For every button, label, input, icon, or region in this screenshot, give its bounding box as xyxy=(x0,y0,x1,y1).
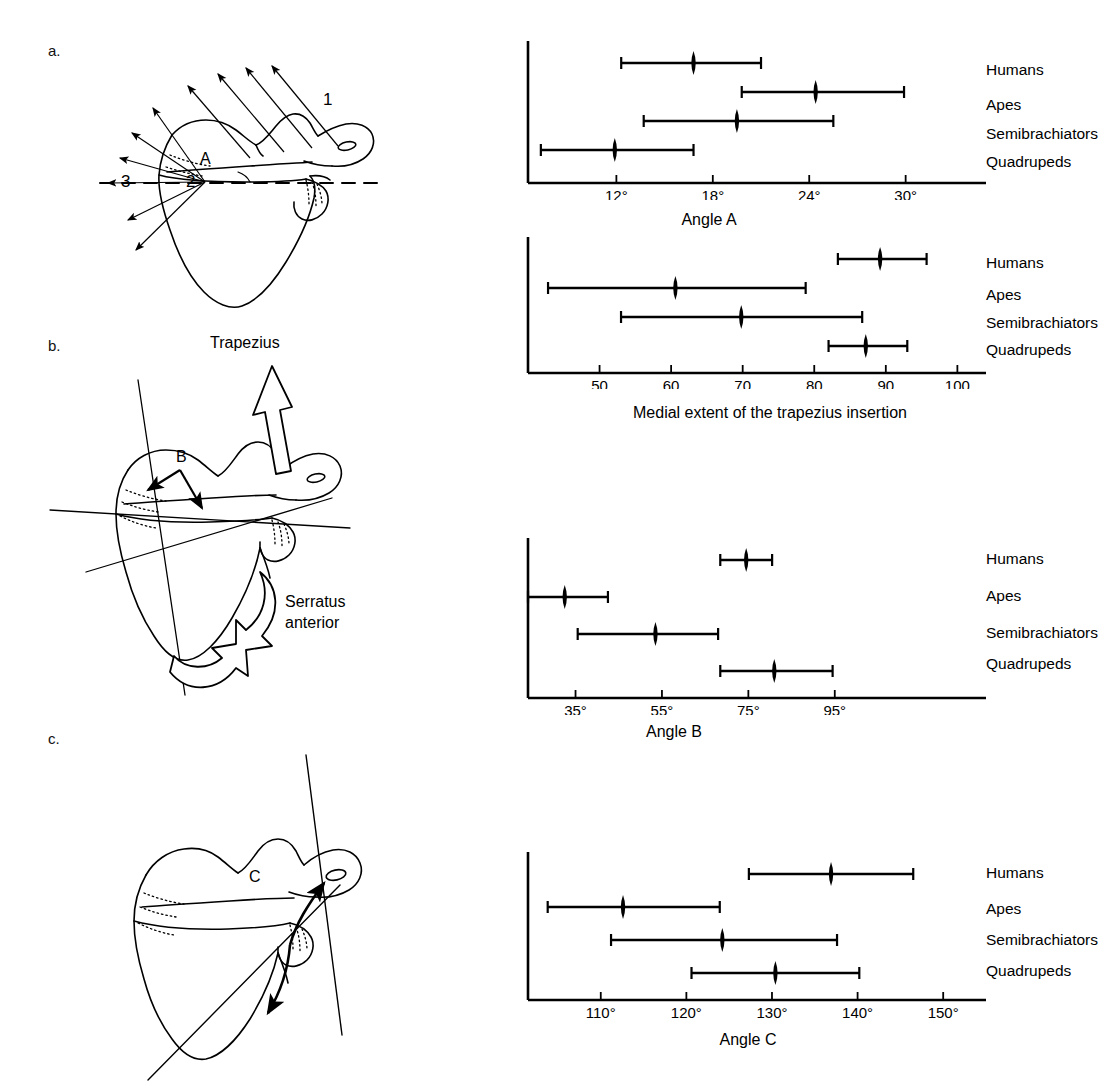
diagram-b-angle-label: B xyxy=(176,448,187,466)
category-label-quadrupeds: Quadrupeds xyxy=(986,963,1071,979)
range-row-humans xyxy=(621,51,761,75)
chart-angle-c-category-labels: Humans Apes Semibrachiators Quadrupeds xyxy=(986,840,1107,990)
category-label-quadrupeds: Quadrupeds xyxy=(986,154,1071,170)
chart-trapezius-insertion-xlabel: Medial extent of the trapezius insertion xyxy=(633,404,907,422)
diagram-b-trapezius-label: Trapezius xyxy=(210,334,280,352)
chart-angle-a: 12°18°24°30° xyxy=(520,35,990,200)
svg-text:70: 70 xyxy=(734,377,751,389)
diagram-c-angle-label: C xyxy=(249,868,261,886)
range-row-semibrachiators xyxy=(578,622,718,646)
svg-text:100: 100 xyxy=(945,377,970,389)
chart-trapezius-insertion: 5060708090100 xyxy=(520,237,990,389)
svg-text:50: 50 xyxy=(591,377,608,389)
chart-angle-a-xlabel: Angle A xyxy=(681,211,736,229)
diagram-a-angle-label: A xyxy=(200,150,211,168)
category-label-semibrachiators: Semibrachiators xyxy=(986,126,1098,142)
category-label-apes: Apes xyxy=(986,588,1021,604)
svg-text:12°: 12° xyxy=(605,187,628,200)
diagram-a-marker-2: 2 xyxy=(186,172,195,192)
range-row-apes xyxy=(548,895,720,919)
svg-text:95°: 95° xyxy=(823,702,846,715)
chart-angle-c-xlabel: Angle C xyxy=(720,1031,777,1049)
svg-text:140°: 140° xyxy=(842,1004,873,1020)
range-row-quadrupeds xyxy=(692,961,860,985)
range-row-humans xyxy=(720,548,772,572)
range-row-humans xyxy=(749,862,913,886)
chart-angle-b-category-labels: Humans Apes Semibrachiators Quadrupeds xyxy=(986,530,1107,680)
chart-angle-b-xlabel: Angle B xyxy=(646,723,702,741)
scapula-diagram-c xyxy=(40,745,410,1090)
chart-angle-c: 110°120°130°140°150° xyxy=(520,840,990,1020)
diagram-a-marker-1: 1 xyxy=(323,90,332,110)
svg-text:60: 60 xyxy=(663,377,680,389)
svg-text:110°: 110° xyxy=(586,1004,616,1020)
svg-text:24°: 24° xyxy=(798,187,821,200)
scapula-diagram-b xyxy=(20,350,400,710)
range-row-semibrachiators xyxy=(621,305,862,329)
range-row-semibrachiators xyxy=(644,109,834,133)
range-row-apes xyxy=(548,276,806,300)
category-label-apes: Apes xyxy=(986,901,1021,917)
svg-text:30°: 30° xyxy=(894,187,917,200)
range-row-quadrupeds xyxy=(720,659,832,683)
range-row-humans xyxy=(838,247,927,271)
svg-text:150°: 150° xyxy=(928,1004,959,1020)
range-row-apes xyxy=(742,80,904,104)
category-label-humans: Humans xyxy=(986,255,1044,271)
range-row-quadrupeds xyxy=(829,334,908,358)
category-label-humans: Humans xyxy=(986,865,1044,881)
category-label-humans: Humans xyxy=(986,551,1044,567)
range-row-semibrachiators xyxy=(611,928,837,952)
category-label-quadrupeds: Quadrupeds xyxy=(986,342,1071,358)
scapula-diagram-a xyxy=(60,30,400,330)
svg-text:75°: 75° xyxy=(737,702,760,715)
svg-text:35°: 35° xyxy=(564,702,587,715)
svg-text:80: 80 xyxy=(806,377,823,389)
diagram-a-marker-3: 3 xyxy=(121,172,130,192)
category-label-semibrachiators: Semibrachiators xyxy=(986,932,1098,948)
svg-text:55°: 55° xyxy=(651,702,674,715)
diagram-b-serratus-label-line2: anterior xyxy=(285,614,339,632)
category-label-apes: Apes xyxy=(986,287,1021,303)
panel-letter-a: a. xyxy=(48,42,61,59)
svg-text:120°: 120° xyxy=(671,1004,702,1020)
diagram-b-serratus-label-line1: Serratus xyxy=(285,593,345,611)
range-row-apes xyxy=(528,585,608,609)
category-label-quadrupeds: Quadrupeds xyxy=(986,656,1071,672)
svg-text:90: 90 xyxy=(877,377,894,389)
category-label-semibrachiators: Semibrachiators xyxy=(986,315,1098,331)
chart-angle-b: 35°55°75°95° xyxy=(520,530,990,715)
svg-text:18°: 18° xyxy=(701,187,724,200)
chart-trapezius-insertion-category-labels: Humans Apes Semibrachiators Quadrupeds xyxy=(986,237,1107,367)
svg-text:130°: 130° xyxy=(756,1004,787,1020)
range-row-quadrupeds xyxy=(541,138,694,162)
category-label-humans: Humans xyxy=(986,62,1044,78)
category-label-semibrachiators: Semibrachiators xyxy=(986,625,1098,641)
chart-angle-a-category-labels: Humans Apes Semibrachiators Quadrupeds xyxy=(986,35,1107,165)
category-label-apes: Apes xyxy=(986,97,1021,113)
